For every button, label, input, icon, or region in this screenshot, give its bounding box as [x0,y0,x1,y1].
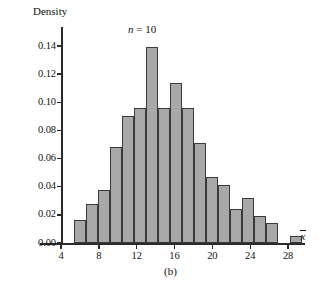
histogram-bar [98,190,110,243]
histogram-bar [206,177,218,243]
panel-label: (b) [0,266,319,277]
histogram-bar [254,216,266,243]
density-histogram-figure: Density n = 10 0.000.020.040.060.080.100… [0,0,319,286]
plot-area: Density n = 10 0.000.020.040.060.080.100… [0,0,319,286]
histogram-bar [218,185,230,243]
histogram-bar [230,209,242,243]
histogram-bar [158,108,170,243]
histogram-bar [242,198,254,243]
histogram-bars [0,0,319,286]
histogram-bar [170,83,182,243]
histogram-bar [134,108,146,243]
x-axis-title: x [300,230,306,242]
histogram-bar [146,47,158,243]
histogram-bar [266,223,278,243]
histogram-bar [110,147,122,243]
histogram-bar [194,143,206,243]
histogram-bar [74,220,86,243]
histogram-bar [86,204,98,243]
histogram-bar [122,116,134,243]
x-axis-title-label: x [300,230,306,241]
histogram-bar [182,108,194,243]
